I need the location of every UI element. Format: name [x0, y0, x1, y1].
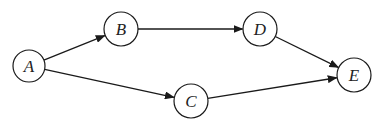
- node-label: A: [23, 57, 35, 76]
- node-c: C: [174, 84, 208, 118]
- node-a: A: [13, 50, 45, 82]
- edge-d-to-e: [275, 36, 338, 67]
- nodes-layer: ABCDE: [13, 12, 371, 118]
- node-label: D: [253, 20, 267, 39]
- edge-a-to-b: [44, 36, 105, 61]
- node-label: C: [185, 92, 197, 111]
- graph-canvas: ABCDE: [0, 0, 382, 124]
- edge-a-to-c: [45, 69, 174, 97]
- node-d: D: [243, 12, 277, 46]
- edge-c-to-e: [208, 78, 337, 99]
- node-e: E: [337, 58, 371, 92]
- node-b: B: [104, 12, 138, 46]
- node-label: B: [116, 20, 127, 39]
- node-label: E: [348, 66, 360, 85]
